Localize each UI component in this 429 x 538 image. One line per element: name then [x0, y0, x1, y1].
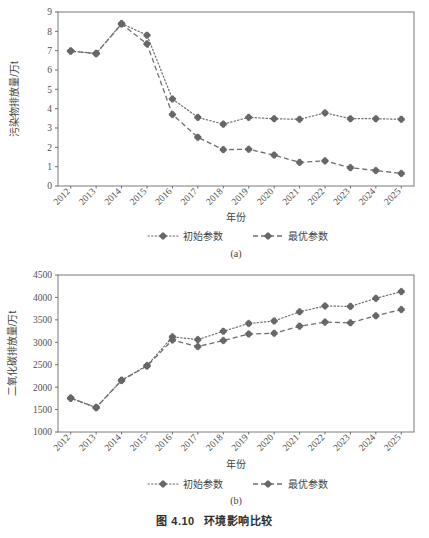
data-point-marker	[195, 336, 202, 343]
data-point-marker	[347, 303, 354, 310]
data-point-marker	[144, 41, 151, 48]
y-axis-tick-label: 4000	[33, 293, 52, 303]
data-point-marker	[347, 319, 354, 326]
legend-swatch-marker-1	[160, 233, 167, 240]
y-axis-tick-label: 5	[47, 85, 52, 95]
x-axis-tick-label: 2018	[204, 186, 225, 207]
x-axis-tick-label: 2018	[204, 432, 225, 453]
x-axis-tick-label: 2020	[255, 186, 276, 207]
data-point-marker	[195, 114, 202, 121]
x-axis-tick-label: 2020	[255, 432, 276, 453]
y-axis-tick-label: 7	[47, 46, 52, 56]
y-axis-tick-label: 2	[47, 143, 52, 153]
x-axis-title: 年份	[226, 211, 246, 223]
y-axis-tick-label: 8	[47, 27, 52, 37]
x-axis-tick-label: 2019	[230, 186, 251, 207]
data-point-marker	[296, 116, 303, 123]
data-point-marker	[347, 164, 354, 171]
data-point-marker	[398, 170, 405, 177]
figure-caption: 图 4.10环境影响比较	[0, 512, 429, 528]
panel-sub-label: (b)	[230, 495, 242, 507]
co2-emissions-line-chart: 1000150020002500300035004000450020122013…	[0, 262, 429, 510]
y-axis-tick-label: 2500	[33, 360, 52, 370]
y-axis-title: 二氧化碳排放量/万t	[6, 311, 18, 397]
x-axis-tick-label: 2024	[357, 186, 378, 207]
chart-panel-b: 1000150020002500300035004000450020122013…	[0, 262, 429, 510]
data-point-marker	[245, 114, 252, 121]
data-point-marker	[245, 146, 252, 153]
data-point-marker	[373, 115, 380, 122]
legend-swatch-marker-2	[265, 233, 272, 240]
data-point-marker	[220, 328, 227, 335]
x-axis-tick-label: 2024	[357, 432, 378, 453]
data-point-marker	[271, 152, 278, 159]
figure-caption-text: 环境影响比较	[204, 515, 273, 527]
x-axis-tick-label: 2023	[331, 432, 352, 453]
data-point-marker	[398, 116, 405, 123]
data-point-marker	[296, 323, 303, 330]
data-point-marker	[271, 330, 278, 337]
figure-caption-number: 图 4.10	[156, 515, 194, 527]
data-point-marker	[195, 343, 202, 350]
data-point-marker	[398, 288, 405, 295]
legend-label-1[interactable]: 初始参数	[183, 230, 223, 242]
x-axis-tick-label: 2015	[128, 432, 149, 453]
y-axis-tick-label: 1000	[33, 427, 52, 437]
panel-sub-label: (a)	[230, 248, 241, 260]
data-point-marker	[373, 167, 380, 174]
y-axis-tick-label: 3	[47, 123, 52, 133]
y-axis-tick-label: 2000	[33, 383, 52, 393]
x-axis-tick-label: 2014	[102, 186, 123, 207]
y-axis-tick-label: 4500	[33, 270, 52, 280]
legend-label-2[interactable]: 最优参数	[288, 478, 328, 490]
data-point-marker	[245, 320, 252, 327]
x-axis-tick-label: 2017	[179, 186, 200, 207]
legend-label-1[interactable]: 初始参数	[183, 478, 223, 490]
y-axis-tick-label: 6	[47, 65, 52, 75]
x-axis-tick-label: 2012	[52, 432, 73, 453]
series-line-2	[71, 24, 402, 173]
x-axis-tick-label: 2015	[128, 186, 149, 207]
data-point-marker	[245, 331, 252, 338]
y-axis-tick-label: 3000	[33, 338, 52, 348]
data-point-marker	[322, 319, 329, 326]
data-point-marker	[373, 313, 380, 320]
data-point-marker	[220, 146, 227, 153]
x-axis-tick-label: 2021	[280, 186, 301, 207]
x-axis-tick-label: 2013	[77, 432, 98, 453]
data-point-marker	[220, 337, 227, 344]
x-axis-tick-label: 2019	[230, 432, 251, 453]
x-axis-title: 年份	[226, 458, 246, 470]
data-point-marker	[67, 48, 74, 55]
x-axis-tick-label: 2023	[331, 186, 352, 207]
x-axis-tick-label: 2022	[306, 186, 327, 207]
data-point-marker	[398, 306, 405, 313]
data-point-marker	[347, 115, 354, 122]
x-axis-tick-label: 2014	[102, 432, 123, 453]
chart-panel-a: 0123456789201220132014201520162017201820…	[0, 0, 429, 262]
data-point-marker	[322, 110, 329, 117]
series-line-1	[71, 24, 402, 125]
x-axis-tick-label: 2025	[382, 432, 403, 453]
data-point-marker	[296, 308, 303, 315]
data-point-marker	[271, 318, 278, 325]
y-axis-tick-label: 1500	[33, 405, 52, 415]
y-axis-tick-label: 1	[47, 162, 52, 172]
x-axis-tick-label: 2012	[52, 186, 73, 207]
y-axis-title: 污染物排放量/万t	[8, 61, 20, 137]
data-point-marker	[144, 32, 151, 39]
x-axis-tick-label: 2016	[153, 432, 174, 453]
y-axis-tick-label: 0	[47, 181, 52, 191]
data-point-marker	[322, 303, 329, 310]
y-axis-tick-label: 9	[47, 7, 52, 17]
x-axis-tick-label: 2025	[382, 186, 403, 207]
data-point-marker	[296, 159, 303, 166]
pollutant-emissions-line-chart: 0123456789201220132014201520162017201820…	[0, 0, 429, 262]
data-point-marker	[67, 395, 74, 402]
legend-label-2[interactable]: 最优参数	[288, 230, 328, 242]
x-axis-tick-label: 2013	[77, 186, 98, 207]
legend-swatch-marker-1	[160, 481, 167, 488]
data-point-marker	[169, 111, 176, 118]
data-point-marker	[169, 96, 176, 103]
data-point-marker	[271, 115, 278, 122]
